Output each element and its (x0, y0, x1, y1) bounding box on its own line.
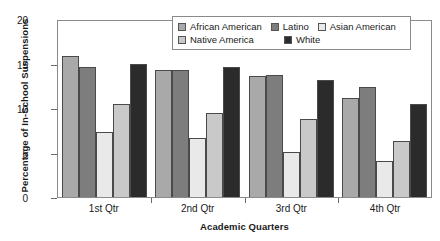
bar (342, 98, 359, 197)
bar (376, 161, 393, 197)
bar (206, 113, 223, 197)
bar-chart: Percentage of In-School Suspensions 0510… (0, 0, 440, 241)
legend: African AmericanLatinoAsian American Nat… (172, 16, 411, 50)
bar (300, 119, 317, 197)
bar (172, 70, 189, 197)
legend-entry: Asian American (318, 22, 396, 32)
legend-swatch-icon (178, 23, 186, 31)
y-tick-label: 15 (0, 59, 28, 70)
legend-label: Latino (283, 22, 309, 32)
legend-swatch-icon (318, 23, 326, 31)
bar (96, 132, 113, 197)
bar (223, 67, 240, 197)
legend-entry: Latino (271, 22, 309, 32)
legend-entry: African American (178, 22, 262, 32)
legend-label: African American (190, 22, 262, 32)
legend-label: Asian American (330, 22, 396, 32)
legend-row: Native AmericaWhite (178, 33, 405, 46)
legend-label: White (296, 35, 320, 45)
legend-swatch-icon (284, 36, 292, 44)
bar (113, 104, 130, 197)
bar-group (58, 21, 151, 197)
legend-row: African AmericanLatinoAsian American (178, 20, 405, 33)
bar (189, 138, 206, 197)
bar (317, 80, 334, 197)
x-tick-mark (245, 198, 246, 203)
legend-swatch-icon (178, 36, 186, 44)
bar (393, 141, 410, 197)
x-tick-label: 4th Qtr (338, 203, 432, 214)
bar (155, 70, 172, 197)
bar (62, 56, 79, 197)
x-tick-label: 1st Qtr (57, 203, 151, 214)
bar (410, 104, 427, 197)
bar (130, 64, 147, 197)
y-tick-label: 20 (0, 15, 28, 26)
bar (283, 152, 300, 197)
y-tick-label: 0 (0, 193, 28, 204)
x-tick-label: 3rd Qtr (244, 203, 338, 214)
legend-label: Native America (190, 35, 254, 45)
x-tick-mark (338, 198, 339, 203)
legend-entry: White (284, 35, 320, 45)
y-tick-label: 5 (0, 148, 28, 159)
bar (79, 67, 96, 197)
x-tick-label: 2nd Qtr (151, 203, 245, 214)
y-tick-label: 10 (0, 104, 28, 115)
x-axis-title: Academic Quarters (57, 221, 432, 232)
bar (266, 75, 283, 197)
legend-entry: Native America (178, 35, 275, 45)
y-tick-mark (51, 198, 57, 199)
x-tick-mark (151, 198, 152, 203)
bar (359, 87, 376, 197)
bar (249, 76, 266, 197)
legend-swatch-icon (271, 23, 279, 31)
